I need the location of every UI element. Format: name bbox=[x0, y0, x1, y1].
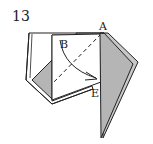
label-a: A bbox=[99, 21, 107, 32]
label-b: B bbox=[60, 39, 68, 50]
label-e: E bbox=[91, 88, 99, 99]
grey-flap-front bbox=[100, 33, 133, 138]
step-number: 13 bbox=[12, 9, 30, 23]
